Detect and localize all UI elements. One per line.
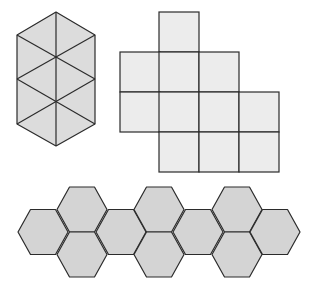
square-cell (120, 52, 160, 92)
square-cell (199, 132, 239, 172)
square-cell (159, 92, 199, 132)
hexagon-tessellation (18, 187, 300, 277)
square-cell (199, 52, 239, 92)
tessellation-figure (0, 0, 310, 285)
square-cell (239, 132, 279, 172)
square-cell (159, 132, 199, 172)
square-cell (239, 92, 279, 132)
square-tessellation (120, 12, 279, 172)
square-cell (120, 92, 160, 132)
square-cell (159, 12, 199, 52)
square-cell (199, 92, 239, 132)
triangle-tessellation (17, 12, 95, 146)
square-cell (159, 52, 199, 92)
